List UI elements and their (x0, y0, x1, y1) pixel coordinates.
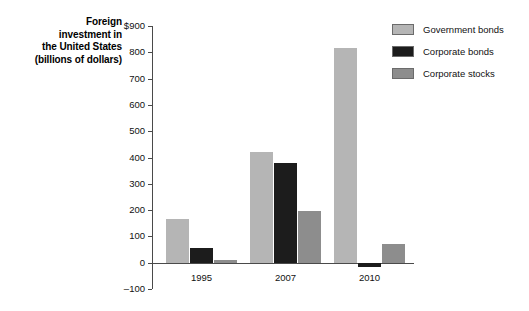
y-tick-mark (148, 79, 152, 80)
y-tick-label: 200 (129, 203, 145, 216)
y-tick-mark (148, 210, 152, 211)
chart-title-line-2: investment in (14, 29, 122, 42)
bar-2007-corporate-bonds (274, 163, 297, 262)
bar-2010-corporate-stocks (382, 244, 405, 262)
bar-1995-corporate-stocks (214, 260, 237, 263)
y-tick-label: –100 (124, 282, 145, 295)
y-tick-label: 100 (129, 229, 145, 242)
legend-item-government-bonds[interactable]: Government bonds (392, 18, 524, 40)
bar-1995-corporate-bonds (190, 248, 213, 263)
legend-item-corporate-stocks[interactable]: Corporate stocks (392, 62, 524, 84)
y-tick-label: $900 (124, 19, 145, 32)
chart-title-line-1: Foreign (14, 16, 122, 29)
chart-title: Foreign investment in the United States … (14, 16, 122, 66)
chart-legend: Government bonds Corporate bonds Corpora… (392, 18, 524, 84)
chart-title-line-3: the United States (14, 41, 122, 54)
y-tick-mark (148, 26, 152, 27)
bar-2007-corporate-stocks (298, 211, 321, 263)
y-axis-line (152, 26, 153, 289)
legend-label-corporate-bonds: Corporate bonds (423, 46, 494, 57)
plot-area: $9008007006005004003002001000–100 199520… (152, 26, 414, 289)
y-tick-mark (148, 184, 152, 185)
y-tick-label: 0 (140, 256, 145, 269)
y-tick-label: 400 (129, 151, 145, 164)
y-tick-label: 600 (129, 98, 145, 111)
x-axis-label-2007: 2007 (256, 272, 316, 283)
legend-swatch-icon-corporate-bonds (392, 46, 414, 57)
y-tick-label: 500 (129, 124, 145, 137)
bar-2010-government-bonds (334, 48, 357, 262)
y-tick-label: 300 (129, 177, 145, 190)
legend-label-government-bonds: Government bonds (423, 24, 504, 35)
x-axis-label-1995: 1995 (172, 272, 232, 283)
y-tick-label: 800 (129, 45, 145, 58)
bar-chart: Foreign investment in the United States … (0, 0, 529, 311)
y-tick-mark (148, 236, 152, 237)
y-tick-mark (148, 105, 152, 106)
x-axis-label-2010: 2010 (340, 272, 400, 283)
bar-2010-corporate-bonds (358, 263, 381, 267)
y-tick-mark (148, 263, 152, 264)
legend-item-corporate-bonds[interactable]: Corporate bonds (392, 40, 524, 62)
y-tick-mark (148, 131, 152, 132)
bar-2007-government-bonds (250, 152, 273, 262)
y-tick-mark (148, 158, 152, 159)
chart-title-line-4: (billions of dollars) (14, 54, 122, 67)
bar-1995-government-bonds (166, 219, 189, 262)
y-tick-label: 700 (129, 72, 145, 85)
legend-swatch-icon-corporate-stocks (392, 68, 414, 79)
y-tick-mark (148, 289, 152, 290)
y-tick-mark (148, 52, 152, 53)
legend-swatch-icon-government-bonds (392, 24, 414, 35)
legend-label-corporate-stocks: Corporate stocks (423, 68, 495, 79)
